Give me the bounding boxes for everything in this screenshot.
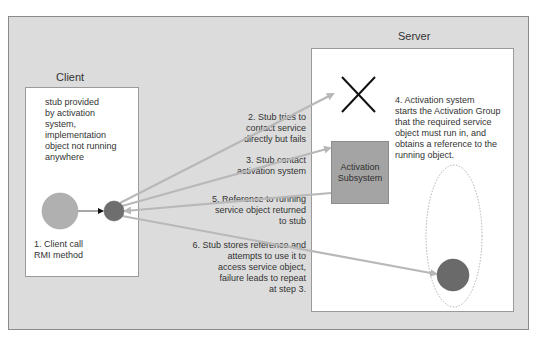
stub-icon: [104, 201, 124, 221]
diagram-graphics: [0, 0, 538, 338]
step3-arrow: [122, 148, 330, 206]
step6-arrow: [122, 216, 436, 274]
failed-contact-x-icon: [342, 77, 375, 112]
step2-arrow: [120, 94, 333, 203]
client-object-icon: [42, 193, 78, 229]
service-object-icon: [437, 259, 469, 291]
